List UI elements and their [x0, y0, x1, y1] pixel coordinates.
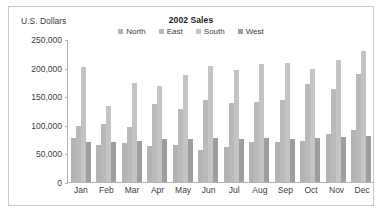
legend-swatch-icon	[159, 29, 164, 34]
chart-frame: U.S. Dollars 2002 Sales NorthEastSouthWe…	[8, 6, 374, 206]
bar-groups	[68, 40, 374, 182]
bar-group-jun	[196, 40, 222, 182]
y-tick-label: 100,000	[31, 121, 62, 131]
legend-item-west[interactable]: West	[238, 27, 264, 36]
legend-swatch-icon	[196, 29, 201, 34]
y-tick-label: 150,000	[31, 92, 62, 102]
y-tick-mark	[65, 183, 68, 184]
bar-group-may	[170, 40, 196, 182]
plot-area: 050,000100,000150,000200,000250,000	[67, 40, 374, 183]
legend-item-east[interactable]: East	[159, 27, 183, 36]
legend-label: West	[246, 27, 264, 36]
bar-group-aug	[247, 40, 273, 182]
bar-group-mar	[119, 40, 145, 182]
legend-item-south[interactable]: South	[196, 27, 225, 36]
bar-group-sep	[272, 40, 298, 182]
x-axis-label: Nov	[324, 185, 350, 195]
x-axis-label: Oct	[298, 185, 324, 195]
bar-west[interactable]	[137, 141, 142, 182]
x-axis-label: Feb	[94, 185, 120, 195]
x-axis-label: May	[170, 185, 196, 195]
bar-west[interactable]	[86, 142, 91, 182]
x-axis-label: Aug	[247, 185, 273, 195]
legend-swatch-icon	[118, 29, 123, 34]
x-axis-label: Sep	[273, 185, 299, 195]
bar-west[interactable]	[315, 138, 320, 182]
bar-west[interactable]	[213, 138, 218, 182]
bar-group-oct	[298, 40, 324, 182]
x-axis-label: Mar	[119, 185, 145, 195]
x-axis-label: Jan	[68, 185, 94, 195]
legend-swatch-icon	[238, 29, 243, 34]
chart-title: 2002 Sales	[9, 15, 373, 25]
x-axis-label: Dec	[349, 185, 375, 195]
legend-label: North	[126, 27, 146, 36]
y-tick-label: 200,000	[31, 64, 62, 74]
bar-west[interactable]	[162, 139, 167, 182]
y-tick-label: 250,000	[31, 35, 62, 45]
bar-west[interactable]	[290, 139, 295, 182]
bar-group-dec	[349, 40, 375, 182]
bar-group-apr	[145, 40, 171, 182]
legend-label: East	[167, 27, 183, 36]
bar-west[interactable]	[366, 136, 371, 182]
bar-group-jan	[68, 40, 94, 182]
bar-west[interactable]	[239, 139, 244, 182]
bar-group-nov	[323, 40, 349, 182]
bar-group-jul	[221, 40, 247, 182]
bar-west[interactable]	[111, 142, 116, 182]
x-axis-labels: JanFebMarAprMayJunJulAugSepOctNovDec	[68, 185, 375, 195]
x-axis-line	[67, 182, 374, 183]
y-tick-label: 0	[57, 178, 62, 188]
bar-west[interactable]	[264, 138, 269, 182]
x-axis-label: Jun	[196, 185, 222, 195]
bar-group-feb	[94, 40, 120, 182]
bar-west[interactable]	[188, 139, 193, 182]
bar-west[interactable]	[341, 137, 346, 182]
legend-item-north[interactable]: North	[118, 27, 146, 36]
chart-legend: NorthEastSouthWest	[9, 27, 373, 36]
x-axis-label: Apr	[145, 185, 171, 195]
y-tick-label: 50,000	[36, 149, 62, 159]
legend-label: South	[204, 27, 225, 36]
x-axis-label: Jul	[221, 185, 247, 195]
